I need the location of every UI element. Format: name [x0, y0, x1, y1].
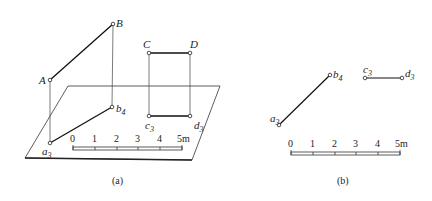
scale-a-tick-5: 5m [177, 133, 190, 144]
point-C [147, 51, 151, 55]
scale-b-tick-3: 3 [353, 138, 358, 149]
label-b4: b4 [116, 102, 126, 117]
caption-b: (b) [337, 175, 349, 187]
scale-a-tick-0: 0 [70, 133, 75, 144]
figure-b: a3 b4 c3 d3 0 1 2 3 4 5m (b) [270, 63, 415, 187]
projector-B [112, 24, 113, 107]
label-B: B [116, 17, 123, 29]
point-A [48, 78, 52, 82]
point-d3-plan [400, 76, 404, 80]
diagram-canvas: A B a3 b4 C D c3 d3 0 1 2 3 4 5m (a) [0, 0, 432, 201]
scale-b-tick-1: 1 [310, 138, 315, 149]
label-a3-plan: a3 [270, 112, 280, 127]
point-c3 [147, 114, 151, 118]
scale-a-tick-4: 4 [157, 133, 162, 144]
caption-a: (a) [112, 175, 123, 187]
label-d3: d3 [194, 119, 204, 134]
label-A: A [38, 74, 46, 86]
line-a3b4 [50, 107, 112, 143]
line-a3b4-plan [279, 75, 330, 125]
point-d3 [188, 114, 192, 118]
ground-plane [25, 86, 220, 160]
figure-a: A B a3 b4 C D c3 d3 0 1 2 3 4 5m (a) [25, 17, 220, 187]
scale-b-tick-4: 4 [375, 138, 380, 149]
point-b4-plan [328, 73, 332, 77]
scale-bar-a: 0 1 2 3 4 5m [70, 133, 190, 150]
label-c3-plan: c3 [363, 63, 372, 78]
scale-a-tick-1: 1 [92, 133, 97, 144]
label-D: D [189, 38, 198, 50]
label-c3: c3 [145, 119, 154, 134]
label-C: C [143, 38, 151, 50]
point-B [111, 22, 115, 26]
label-d3-plan: d3 [405, 67, 415, 82]
line-AB [50, 24, 113, 80]
point-D [188, 51, 192, 55]
scale-b-tick-5: 5m [395, 138, 408, 149]
point-b4 [110, 105, 114, 109]
scale-b-tick-0: 0 [288, 138, 293, 149]
point-a3 [48, 141, 52, 145]
scale-b-tick-2: 2 [332, 138, 337, 149]
scale-a-tick-2: 2 [114, 133, 119, 144]
point-c3-plan [363, 76, 367, 80]
label-b4-plan: b4 [333, 68, 343, 83]
scale-a-tick-3: 3 [135, 133, 140, 144]
scale-bar-b: 0 1 2 3 4 5m [288, 138, 408, 155]
